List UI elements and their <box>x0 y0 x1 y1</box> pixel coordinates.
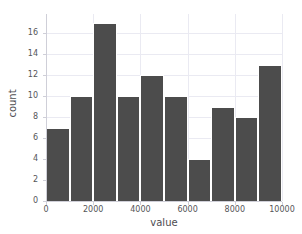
x-tick-label: 2000 <box>70 206 116 214</box>
y-tick-label: 16 <box>0 29 38 37</box>
y-tick-label: 14 <box>0 50 38 58</box>
bar-series <box>46 14 282 201</box>
x-axis-spine <box>46 201 282 202</box>
bar <box>70 96 94 201</box>
y-tick-mark <box>43 138 46 139</box>
gridline-x-10000 <box>282 14 283 201</box>
bar <box>235 117 259 201</box>
bar <box>211 107 235 201</box>
y-tick-mark <box>43 159 46 160</box>
x-tick-mark <box>235 202 236 205</box>
x-tick-label: 8000 <box>212 206 258 214</box>
x-axis-label: value <box>46 217 282 228</box>
x-tick-mark <box>93 202 94 205</box>
bar <box>117 96 141 201</box>
y-tick-label: 6 <box>0 134 38 142</box>
x-tick-mark <box>188 202 189 205</box>
y-tick-label: 0 <box>0 197 38 205</box>
y-tick-mark <box>43 75 46 76</box>
x-tick-mark <box>46 202 47 205</box>
x-tick-label: 0 <box>23 206 69 214</box>
y-tick-label: 4 <box>0 155 38 163</box>
y-tick-mark <box>43 117 46 118</box>
x-tick-label: 6000 <box>165 206 211 214</box>
bar <box>188 159 212 201</box>
bar <box>258 65 282 201</box>
bar <box>93 23 117 201</box>
y-tick-mark <box>43 96 46 97</box>
y-tick-mark <box>43 180 46 181</box>
y-tick-mark <box>43 54 46 55</box>
x-tick-label: 10000 <box>259 206 302 214</box>
bar <box>140 75 164 201</box>
plot-area <box>46 14 282 201</box>
bar <box>46 128 70 201</box>
x-tick-mark <box>140 202 141 205</box>
y-tick-label: 2 <box>0 176 38 184</box>
x-tick-label: 4000 <box>117 206 163 214</box>
y-axis-spine <box>46 14 47 202</box>
x-tick-mark <box>282 202 283 205</box>
bar <box>164 96 188 201</box>
y-tick-mark <box>43 33 46 34</box>
y-axis-label: count <box>7 74 18 134</box>
histogram-figure: 0246810121416 0200040006000800010000 val… <box>0 0 302 234</box>
